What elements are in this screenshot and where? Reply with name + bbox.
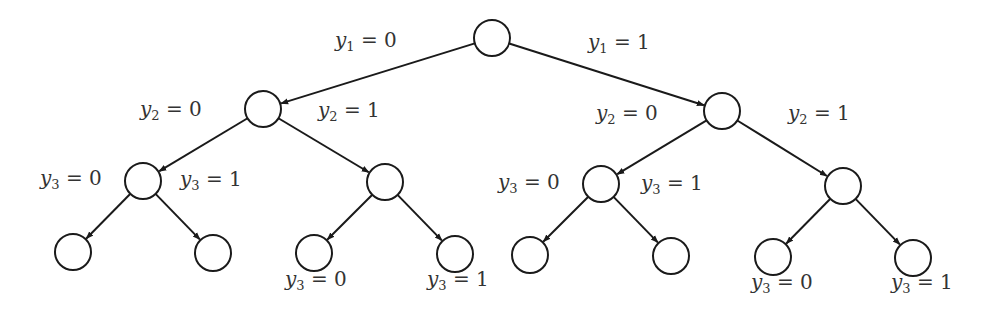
label-subscript: 3 bbox=[652, 182, 660, 197]
edge-label: y3 = 0 bbox=[285, 269, 347, 292]
label-value: = 0 bbox=[160, 97, 202, 121]
label-value: = 0 bbox=[771, 270, 813, 294]
edge-label: y3 = 0 bbox=[498, 172, 560, 195]
label-value: = 0 bbox=[60, 166, 102, 190]
edge-arrow bbox=[614, 197, 658, 242]
edge-label: y3 = 1 bbox=[427, 269, 489, 292]
edge-label: y3 = 1 bbox=[641, 173, 703, 196]
label-variable: y bbox=[498, 170, 509, 194]
label-value: = 0 bbox=[616, 101, 658, 125]
tree-node bbox=[195, 235, 231, 271]
edge-arrow bbox=[543, 197, 588, 242]
tree-node bbox=[245, 91, 281, 127]
label-value: = 1 bbox=[911, 270, 953, 294]
label-subscript: 2 bbox=[607, 112, 615, 127]
label-subscript: 2 bbox=[151, 108, 159, 123]
label-value: = 0 bbox=[518, 170, 560, 194]
label-subscript: 3 bbox=[902, 281, 910, 296]
label-subscript: 3 bbox=[438, 278, 446, 293]
edge-arrow bbox=[327, 195, 372, 240]
label-value: = 0 bbox=[305, 267, 347, 291]
tree-node bbox=[296, 235, 332, 271]
edge-arrow bbox=[856, 199, 900, 244]
label-variable: y bbox=[180, 167, 191, 191]
label-variable: y bbox=[596, 101, 607, 125]
label-subscript: 3 bbox=[509, 181, 517, 196]
label-subscript: 3 bbox=[296, 278, 304, 293]
label-value: = 1 bbox=[200, 167, 242, 191]
tree-node bbox=[55, 234, 91, 270]
label-value: = 1 bbox=[338, 98, 380, 122]
label-value: = 1 bbox=[608, 30, 650, 54]
label-value: = 1 bbox=[447, 267, 489, 291]
tree-node bbox=[825, 168, 861, 204]
edge-arrow bbox=[278, 118, 368, 172]
label-variable: y bbox=[40, 166, 51, 190]
label-value: = 1 bbox=[808, 101, 850, 125]
edge-arrow bbox=[86, 194, 130, 239]
tree-node bbox=[367, 164, 403, 200]
edge-arrow bbox=[737, 120, 827, 176]
edge-label: y3 = 0 bbox=[40, 168, 102, 191]
edge-label: y1 = 0 bbox=[335, 30, 397, 53]
tree-node bbox=[704, 93, 740, 129]
label-variable: y bbox=[751, 270, 762, 294]
tree-node bbox=[512, 237, 548, 273]
edges-layer bbox=[86, 43, 899, 244]
edge-arrow bbox=[786, 199, 830, 244]
edge-label: y2 = 1 bbox=[318, 100, 380, 123]
label-variable: y bbox=[641, 171, 652, 195]
edge-label: y2 = 0 bbox=[140, 99, 202, 122]
label-variable: y bbox=[335, 28, 346, 52]
label-variable: y bbox=[788, 101, 799, 125]
label-variable: y bbox=[318, 98, 329, 122]
label-value: = 1 bbox=[661, 171, 703, 195]
label-subscript: 1 bbox=[346, 39, 354, 54]
edge-arrow bbox=[156, 194, 200, 239]
edge-label: y3 = 1 bbox=[891, 272, 953, 295]
label-subscript: 3 bbox=[191, 178, 199, 193]
label-variable: y bbox=[891, 270, 902, 294]
nodes-layer bbox=[55, 20, 931, 276]
edge-label: y3 = 0 bbox=[751, 272, 813, 295]
edge-arrow bbox=[617, 120, 706, 174]
edge-arrow bbox=[159, 118, 247, 171]
edge-arrow bbox=[398, 195, 442, 240]
edge-label: y1 = 1 bbox=[588, 32, 650, 55]
label-variable: y bbox=[140, 97, 151, 121]
edge-label: y2 = 0 bbox=[596, 103, 658, 126]
label-variable: y bbox=[427, 267, 438, 291]
tree-node bbox=[653, 238, 689, 274]
edge-label: y3 = 1 bbox=[180, 169, 242, 192]
edge-label: y2 = 1 bbox=[788, 103, 850, 126]
label-variable: y bbox=[285, 267, 296, 291]
label-variable: y bbox=[588, 30, 599, 54]
label-subscript: 3 bbox=[762, 281, 770, 296]
tree-node bbox=[125, 163, 161, 199]
label-subscript: 1 bbox=[599, 41, 607, 56]
decision-tree-diagram: y1 = 0y1 = 1y2 = 0y2 = 1y2 = 0y2 = 1y3 =… bbox=[0, 0, 991, 327]
tree-graphic bbox=[0, 0, 991, 327]
tree-node bbox=[583, 166, 619, 202]
label-subscript: 2 bbox=[329, 109, 337, 124]
tree-node bbox=[474, 20, 510, 56]
label-subscript: 3 bbox=[51, 177, 59, 192]
label-value: = 0 bbox=[355, 28, 397, 52]
label-subscript: 2 bbox=[799, 112, 807, 127]
